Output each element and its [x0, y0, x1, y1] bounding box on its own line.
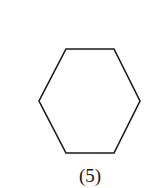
hexagon-shape: [39, 49, 140, 153]
hexagon-figure: (5): [0, 0, 144, 188]
figure-label: (5): [79, 165, 101, 187]
